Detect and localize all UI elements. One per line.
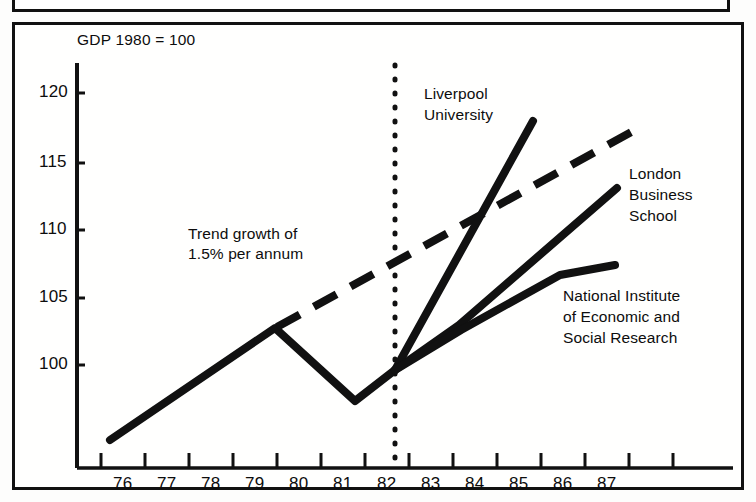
series-line-actual-gdp (110, 328, 395, 440)
x-axis-ticks (101, 453, 673, 468)
x-tick-label-86: 86 (553, 474, 572, 494)
y-tick-label-110: 110 (39, 219, 67, 239)
y-tick-label-120: 120 (39, 82, 68, 102)
y-tick-label-105: 105 (39, 287, 68, 307)
x-tick-label-83: 83 (421, 474, 440, 494)
annotation-liverpool-university-line1: Liverpool (424, 85, 488, 103)
x-tick-label-77: 77 (157, 474, 176, 494)
annotation-national-institute-line2: of Economic and (563, 308, 680, 326)
x-tick-label-79: 79 (245, 474, 264, 494)
annotation-trend-growth-line1: Trend growth of (188, 225, 297, 243)
annotation-london-business-school-line2: Business (629, 186, 693, 204)
x-tick-label-87: 87 (597, 474, 616, 494)
x-tick-label-82: 82 (377, 474, 396, 494)
x-tick-label-81: 81 (333, 474, 352, 494)
gdp-forecast-line-chart (15, 25, 741, 487)
annotation-liverpool-university-line2: University (424, 106, 493, 124)
x-tick-label-78: 78 (201, 474, 220, 494)
x-tick-label-76: 76 (113, 474, 132, 494)
x-tick-label-85: 85 (509, 474, 528, 494)
annotation-national-institute-line1: National Institute (563, 287, 680, 305)
y-tick-label-115: 115 (39, 152, 67, 172)
chart-note-gdp-base: GDP 1980 = 100 (77, 31, 195, 49)
x-tick-label-80: 80 (289, 474, 308, 494)
annotation-london-business-school-line1: London (629, 165, 681, 183)
screenshot-root: GDP 1980 = 100 120 115 110 105 100 76 77… (0, 0, 756, 502)
previous-panel-frame-fragment (12, 0, 730, 12)
x-tick-label-84: 84 (465, 474, 484, 494)
annotation-london-business-school-line3: School (629, 207, 677, 225)
chart-panel: GDP 1980 = 100 120 115 110 105 100 76 77… (12, 22, 744, 490)
y-tick-label-100: 100 (39, 354, 68, 374)
annotation-national-institute-line3: Social Research (563, 329, 677, 347)
annotation-trend-growth-line2: 1.5% per annum (188, 245, 303, 263)
